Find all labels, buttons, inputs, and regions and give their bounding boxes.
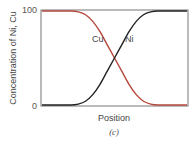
concentration-chart: 100 0 Concentration of Ni, Cu Position (… — [0, 0, 195, 147]
y-axis-label: Concentration of Ni, Cu — [8, 11, 18, 105]
figure-caption: (c) — [109, 127, 119, 137]
y-tick-label: 100 — [22, 5, 37, 15]
series-line-ni — [42, 11, 187, 105]
series-layer — [42, 11, 187, 105]
x-axis-label: Position — [98, 113, 130, 123]
annotation-ni: Ni — [125, 34, 134, 44]
annotation-cu: Cu — [92, 34, 104, 44]
y-tick-label: 0 — [32, 101, 37, 111]
